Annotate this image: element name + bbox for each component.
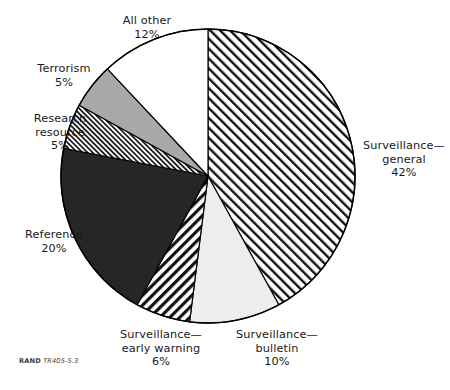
pie-label-bulletin-name-line1: Surveillance— (222, 328, 332, 342)
pie-label-reference-name: Reference (4, 228, 104, 242)
pie-label-early-warning-value: 6% (104, 355, 218, 369)
pie-label-surveillance-bulletin: Surveillance— bulletin 10% (222, 328, 332, 369)
pie-label-all-other-name: All other (88, 14, 206, 28)
pie-label-surveillance-general: Surveillance— general 42% (358, 139, 450, 180)
pie-label-research-resource: Research resource 5% (2, 112, 118, 153)
pie-label-general-value: 42% (358, 166, 450, 180)
pie-label-all-other: All other 12% (88, 14, 206, 41)
pie-label-surveillance-early-warning: Surveillance— early warning 6% (104, 328, 218, 369)
source-identifier: TR405-5.3 (43, 357, 78, 365)
pie-label-research-resource-name-line2: resource (2, 126, 118, 140)
pie-label-bulletin-name-line2: bulletin (222, 342, 332, 356)
pie-label-terrorism: Terrorism 5% (10, 62, 118, 89)
figure-source-note: RAND TR405-5.3 (19, 357, 78, 366)
pie-label-general-name-line2: general (358, 153, 450, 167)
pie-label-research-resource-value: 5% (2, 139, 118, 153)
pie-label-reference-value: 20% (4, 242, 104, 256)
pie-label-terrorism-value: 5% (10, 76, 118, 90)
pie-label-all-other-value: 12% (88, 28, 206, 42)
pie-chart-figure: Surveillance—general 42%Surveillance—bul… (0, 0, 450, 390)
pie-label-early-warning-name-line2: early warning (104, 342, 218, 356)
pie-label-reference: Reference 20% (4, 228, 104, 255)
pie-label-general-name-line1: Surveillance— (358, 139, 450, 153)
pie-label-bulletin-value: 10% (222, 355, 332, 369)
pie-label-research-resource-name-line1: Research (2, 112, 118, 126)
pie-label-terrorism-name: Terrorism (10, 62, 118, 76)
source-organization: RAND (19, 357, 41, 365)
pie-label-early-warning-name-line1: Surveillance— (104, 328, 218, 342)
